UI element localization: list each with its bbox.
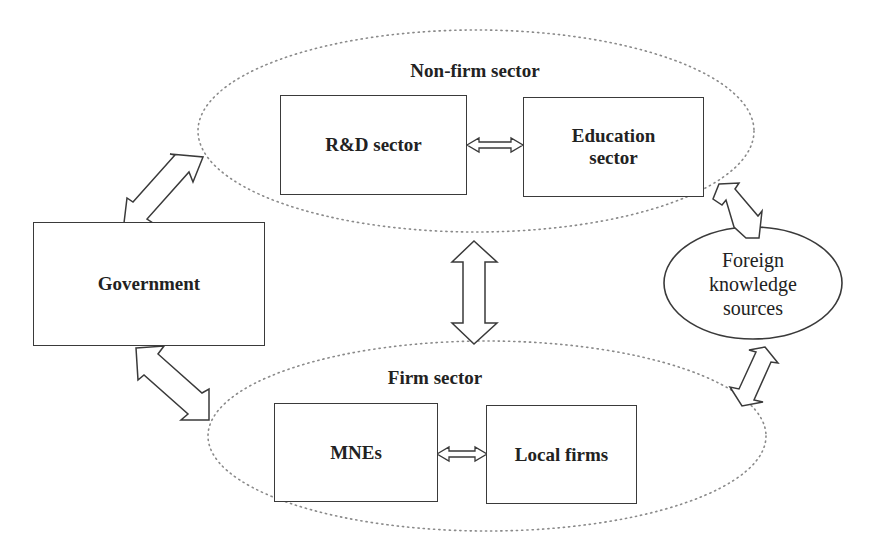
- education-sector-label: Education sector: [559, 125, 669, 169]
- double-arrow-foreign-firm-icon: [730, 347, 778, 406]
- double-arrow-government-nonfirm-icon: [124, 154, 203, 223]
- mnes-label: MNEs: [330, 442, 382, 464]
- double-arrow-rd-education-icon: [467, 138, 523, 152]
- government-label: Government: [98, 273, 200, 295]
- double-arrow-foreign-nonfirm-icon: [713, 183, 762, 238]
- double-arrow-mnes-local-icon: [437, 447, 487, 461]
- foreign-knowledge-label: Foreign knowledge sources: [683, 248, 823, 320]
- government-box: Government: [33, 222, 265, 346]
- local-firms-box: Local firms: [486, 405, 637, 504]
- rd-sector-label: R&D sector: [325, 134, 422, 156]
- non-firm-sector-title: Non-firm sector: [375, 60, 575, 82]
- education-sector-box: Education sector: [523, 97, 704, 197]
- double-arrow-sectors-icon: [452, 241, 497, 344]
- double-arrow-government-firm-icon: [136, 346, 209, 420]
- mnes-box: MNEs: [274, 403, 438, 502]
- firm-sector-title: Firm sector: [345, 367, 525, 389]
- local-firms-label: Local firms: [515, 444, 608, 466]
- rd-sector-box: R&D sector: [280, 95, 467, 195]
